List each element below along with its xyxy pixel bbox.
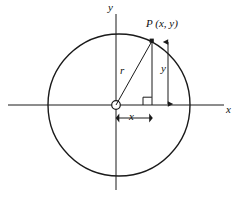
vertical-leg-label: y [161,63,166,74]
circle-coordinates-figure: y x r P (x, y) y x [0,0,242,197]
y-axis-label: y [108,2,113,13]
point-p-marker [150,39,154,43]
horizontal-leg-label: x [129,111,134,122]
figure-canvas [0,0,242,197]
radius-label: r [120,65,124,76]
x-axis-label: x [226,104,231,115]
right-angle-marker [143,97,152,105]
point-p-label: P (x, y) [146,18,178,29]
